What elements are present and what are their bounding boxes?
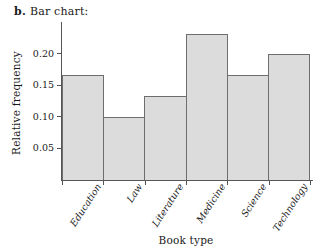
x-axis-tick bbox=[310, 180, 311, 185]
x-axis-category-label: Science bbox=[240, 182, 268, 219]
x-axis-category-label: Technology bbox=[272, 182, 310, 233]
x-axis-category-label: Education bbox=[68, 182, 103, 228]
x-axis-title: Book type bbox=[62, 234, 310, 246]
x-axis-category-label: Medicine bbox=[194, 182, 226, 225]
y-axis-tick-label: 0.20 bbox=[33, 49, 54, 59]
y-axis-tick-label: 0.10 bbox=[33, 112, 54, 122]
bar-chart-figure: b.Bar chart: Relative frequency 0.050.10… bbox=[0, 0, 324, 252]
y-axis-title: Relative frequency bbox=[8, 26, 24, 180]
x-axis-title-text: Book type bbox=[159, 234, 214, 246]
y-axis-tick-label: 0.05 bbox=[33, 143, 54, 153]
y-axis-title-text: Relative frequency bbox=[10, 51, 22, 155]
bar bbox=[227, 75, 269, 180]
caption-item-letter: b. bbox=[14, 5, 26, 18]
x-axis-category-label: Literature bbox=[151, 182, 186, 228]
x-axis-category-label: Law bbox=[125, 182, 144, 204]
caption-text: Bar chart: bbox=[30, 5, 89, 18]
bar-series bbox=[62, 26, 310, 180]
y-axis-tick-label: 0.15 bbox=[33, 80, 54, 90]
bar bbox=[144, 96, 186, 180]
figure-caption: b.Bar chart: bbox=[14, 5, 89, 18]
bar bbox=[103, 117, 145, 180]
bar bbox=[268, 54, 310, 180]
bar bbox=[62, 75, 104, 180]
x-axis-category-labels: EducationLawLiteratureMedicineScienceTec… bbox=[62, 182, 310, 232]
bar bbox=[186, 34, 228, 180]
x-axis-line bbox=[61, 180, 313, 181]
plot-area: 0.050.100.150.20 bbox=[62, 26, 310, 180]
